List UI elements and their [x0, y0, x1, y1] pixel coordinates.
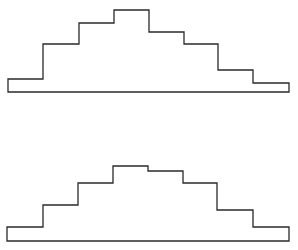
diagram-canvas [0, 0, 298, 250]
top-step-profile [8, 10, 289, 92]
bottom-step-profile [7, 166, 289, 241]
